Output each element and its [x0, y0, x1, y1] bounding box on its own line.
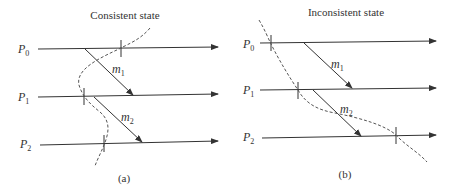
panel-a-caption: (a) [118, 172, 131, 185]
label-p1-a: P1 [17, 90, 29, 106]
label-p2-b: P2 [242, 130, 254, 146]
panel-b-caption: (b) [339, 168, 352, 181]
label-m1-b: m1 [331, 57, 344, 73]
message-m1-a [85, 49, 133, 95]
label-m2-a: m2 [121, 110, 134, 126]
label-p2-a: P2 [19, 137, 31, 153]
panel-a: Consistent state P0 P1 P2 m1 m2 (a) [17, 9, 218, 185]
timeline-p0-b [260, 41, 436, 43]
label-p1-b: P1 [242, 83, 254, 99]
timeline-p0-a [38, 47, 218, 49]
panel-b-title: Inconsistent state [308, 6, 384, 18]
timeline-p2-a [40, 141, 218, 145]
label-m1-a: m1 [112, 62, 125, 78]
panel-a-title: Consistent state [90, 9, 159, 21]
process-labels-b: P0 P1 P2 [242, 37, 254, 146]
timeline-p1-b [260, 88, 436, 90]
snapshot-diagram: Consistent state P0 P1 P2 m1 m2 (a) Inco… [0, 0, 456, 193]
message-m2-a [94, 97, 142, 142]
message-m1-b [304, 43, 352, 88]
timeline-p2-b [262, 135, 436, 138]
label-p0-b: P0 [242, 37, 254, 53]
panel-b: Inconsistent state P0 P1 P2 m1 m2 (b) [242, 6, 436, 181]
label-p0-a: P0 [17, 42, 29, 58]
timeline-p1-a [38, 94, 218, 97]
process-labels-a: P0 P1 P2 [17, 42, 31, 153]
